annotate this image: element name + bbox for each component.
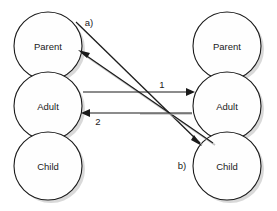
diagram-canvas: Parent Adult Child Parent Adult Child 1 … [0, 0, 277, 211]
arrow-label-b: b) [178, 160, 186, 171]
ego-state-label-left-child: Child [37, 161, 59, 172]
complementary-arrow-1-head [186, 88, 195, 96]
arrow-label-2: 2 [95, 116, 100, 127]
arrow-label-a: a) [85, 17, 93, 28]
complementary-arrow-1 [83, 88, 195, 96]
pac-transaction-diagram: Parent Adult Child Parent Adult Child 1 … [0, 0, 277, 211]
crossed-arrow-a-line [81, 52, 213, 143]
ego-state-label-left-adult: Adult [37, 101, 59, 112]
ego-state-label-right-parent: Parent [213, 41, 241, 52]
arrow-label-1: 1 [159, 79, 164, 90]
ego-state-label-left-parent: Parent [34, 41, 62, 52]
ego-state-label-right-adult: Adult [216, 101, 238, 112]
crossed-arrow-b [76, 22, 202, 146]
ego-state-label-right-child: Child [216, 161, 238, 172]
